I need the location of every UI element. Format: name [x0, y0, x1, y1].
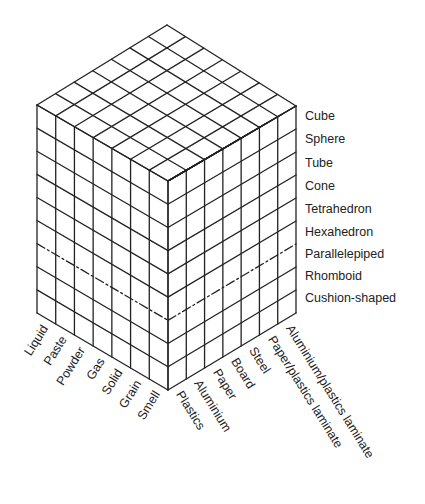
shape-label-tube: Tube	[305, 157, 333, 170]
grid-line	[167, 25, 296, 106]
grid-line	[37, 25, 167, 105]
grid-line	[93, 71, 223, 149]
grid-line	[168, 198, 296, 274]
dashed-grid-line	[37, 244, 168, 321]
grid-line	[37, 105, 168, 181]
grid-line	[74, 48, 203, 127]
grid-line	[37, 128, 168, 204]
grid-line	[93, 60, 222, 138]
grid-line	[131, 83, 260, 159]
shape-label-cube: Cube	[305, 110, 335, 123]
packaging-morphology-cube-diagram: Cube Sphere Tube Cone Tetrahedron Hexahe…	[0, 0, 425, 504]
grid-line	[111, 59, 241, 138]
shape-label-hexahedron: Hexahedron	[305, 226, 373, 239]
grid-line	[148, 36, 277, 116]
grid-line	[168, 152, 296, 227]
grid-line	[37, 221, 168, 298]
grid-line	[168, 175, 296, 251]
grid-line	[168, 129, 296, 204]
grid-line	[37, 151, 168, 227]
grid-line	[37, 197, 168, 273]
grid-line	[168, 106, 296, 181]
grid-line	[37, 267, 168, 344]
shape-label-parallelepiped: Parallelepiped	[305, 248, 384, 261]
grid-line	[168, 221, 296, 297]
grid-line	[130, 48, 260, 128]
grid-line	[56, 94, 187, 171]
grid-line	[149, 94, 277, 170]
shape-label-cushion-shaped: Cushion-shaped	[305, 292, 396, 305]
shape-label-tetrahedron: Tetrahedron	[305, 203, 372, 216]
grid-line	[56, 37, 186, 116]
dashed-grid-line	[168, 244, 296, 320]
shape-label-cone: Cone	[305, 180, 335, 193]
grid-line	[37, 174, 168, 250]
grid-line	[112, 71, 241, 148]
shape-label-sphere: Sphere	[305, 133, 345, 146]
shape-label-rhomboid: Rhomboid	[305, 270, 362, 283]
